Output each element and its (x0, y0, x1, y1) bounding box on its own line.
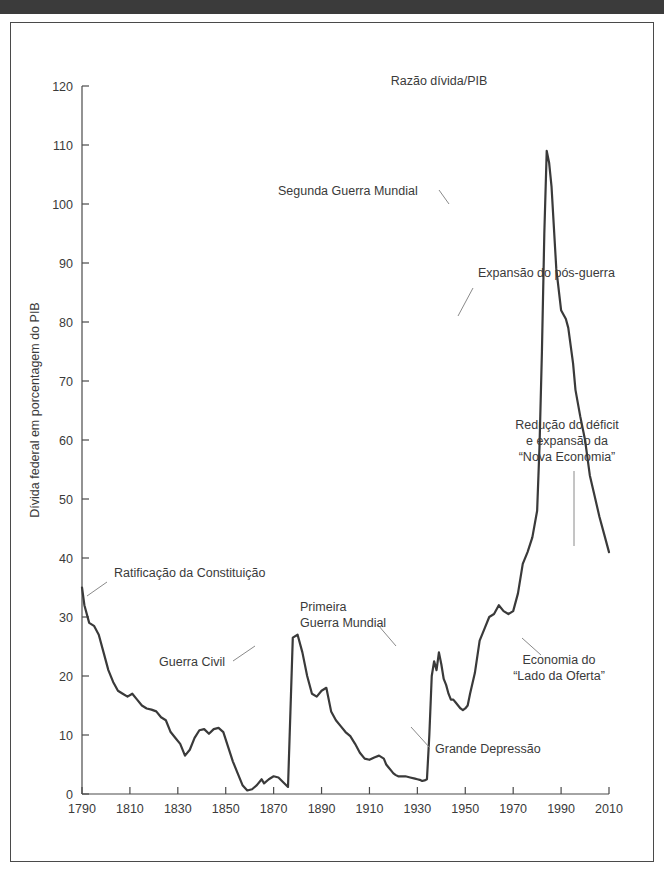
y-tick-label: 50 (59, 493, 73, 507)
annotation-line: Economia do (523, 653, 596, 667)
annotation-reducao-deficit: Redução do déficite expansão da“Nova Eco… (515, 418, 619, 464)
y-tick-label: 30 (59, 611, 73, 625)
annotation-line: Primeira (300, 600, 347, 614)
annotation-ratificacao: Ratificação da Constituição (114, 566, 266, 580)
x-tick-label: 1950 (451, 802, 479, 816)
chart-canvas: 0102030405060708090100110120179018101830… (11, 23, 655, 863)
x-tick-label: 1910 (356, 802, 384, 816)
annotation-economia-lado-oferta: Economia do“Lado da Oferta” (513, 653, 605, 683)
x-tick-label: 1810 (116, 802, 144, 816)
x-tick-label: 1870 (260, 802, 288, 816)
y-tick-label: 20 (59, 670, 73, 684)
x-tick-label: 1850 (212, 802, 240, 816)
annotation-line: e expansão da (526, 434, 608, 448)
x-tick-label: 2010 (595, 802, 623, 816)
y-tick-label: 120 (52, 80, 73, 94)
annotation-leader-segunda-guerra-mundial (439, 190, 449, 204)
annotation-line: Segunda Guerra Mundial (278, 184, 418, 198)
annotation-segunda-guerra-mundial: Segunda Guerra Mundial (278, 184, 418, 198)
annotation-line: “Nova Economia” (519, 450, 616, 464)
annotation-line: “Lado da Oferta” (513, 669, 605, 683)
annotation-leader-ratificacao (87, 582, 107, 596)
y-tick-label: 10 (59, 729, 73, 743)
annotation-leader-expansao-pos-guerra (458, 288, 473, 316)
annotation-line: Redução do déficit (515, 418, 619, 432)
annotation-leader-guerra-civil (233, 646, 255, 661)
y-tick-label: 0 (66, 788, 73, 802)
annotation-line: Guerra Civil (159, 655, 225, 669)
x-tick-label: 1970 (499, 802, 527, 816)
y-tick-label: 40 (59, 552, 73, 566)
annotation-primeira-guerra-mundial: PrimeiraGuerra Mundial (300, 600, 386, 630)
top-band (0, 0, 664, 14)
x-tick-label: 1890 (308, 802, 336, 816)
y-tick-label: 80 (59, 316, 73, 330)
annotation-line: Expansão do pós-guerra (478, 266, 615, 280)
y-tick-label: 100 (52, 198, 73, 212)
annotation-line: Grande Depressão (435, 742, 541, 756)
annotation-leader-grande-depressao (411, 727, 430, 748)
annotation-line: Guerra Mundial (300, 616, 386, 630)
x-tick-label: 1930 (403, 802, 431, 816)
x-tick-label: 1990 (547, 802, 575, 816)
chart-title: Razão dívida/PIB (391, 74, 488, 88)
y-tick-label: 90 (59, 257, 73, 271)
x-tick-label: 1830 (164, 802, 192, 816)
x-tick-label: 1790 (68, 802, 96, 816)
annotation-guerra-civil: Guerra Civil (159, 655, 225, 669)
series-line-0 (82, 151, 609, 791)
y-tick-label: 110 (53, 139, 73, 153)
y-tick-label: 70 (59, 375, 73, 389)
annotation-grande-depressao: Grande Depressão (435, 742, 541, 756)
figure-frame: 0102030405060708090100110120179018101830… (10, 22, 654, 862)
y-axis-title: Dívida federal em porcentagem do PIB (28, 302, 42, 517)
annotation-expansao-pos-guerra: Expansão do pós-guerra (478, 266, 615, 280)
annotation-line: Ratificação da Constituição (114, 566, 266, 580)
y-tick-label: 60 (59, 434, 73, 448)
